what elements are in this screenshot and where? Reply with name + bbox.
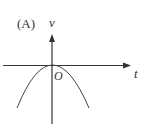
v-axis-arrow-icon <box>49 34 55 42</box>
y-axis-label: v <box>49 15 55 30</box>
option-label: (A) <box>17 16 35 31</box>
velocity-time-graph: (A) v t O <box>0 0 142 125</box>
t-axis-arrow-icon <box>123 63 131 69</box>
parabola-curve <box>17 65 89 108</box>
x-axis-label: t <box>134 66 138 81</box>
origin-label: O <box>54 69 63 83</box>
